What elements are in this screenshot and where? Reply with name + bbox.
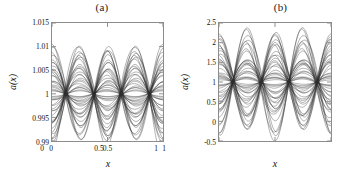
panel-b-xtick-0: 0 <box>40 144 44 153</box>
panel-a-ytick-5: 1.015 <box>32 18 49 27</box>
panel-b-ytick-3: 1 <box>212 78 216 87</box>
curve <box>52 47 163 141</box>
curve <box>52 51 163 139</box>
panel-a-y-axis-label: a(x) <box>7 74 18 90</box>
panel-b-ytick-1: 0 <box>212 118 216 127</box>
panel-b-ytick-5: 2 <box>212 38 216 47</box>
panel-a-x-axis-label: x <box>106 158 110 169</box>
figure-root: (a) 0.990.99511.0051.011.015 00.51 a(x) … <box>0 0 353 180</box>
panel-b-x-ticklabels: 00.51 <box>176 144 353 156</box>
panel-a-ytick-2: 1 <box>45 90 49 99</box>
curve <box>52 62 163 121</box>
panel-b-plot-area <box>218 22 332 142</box>
panel-a-xtick-0: 0 <box>49 144 53 153</box>
panel-a: (a) 0.990.99511.0051.011.015 00.51 a(x) … <box>0 0 176 180</box>
panel-b-curves <box>219 23 331 141</box>
panel-a-ytick-1: 0.995 <box>32 114 49 123</box>
panel-a-ytick-3: 1.005 <box>32 66 49 75</box>
panel-b-ytick-6: 2.5 <box>207 18 216 27</box>
panel-a-ytick-4: 1.01 <box>36 42 49 51</box>
panel-a-xtick-2: 1 <box>162 144 166 153</box>
panel-b-y-axis-label: a(x) <box>179 74 190 90</box>
panel-b-xtick-1: 0.5 <box>94 144 103 153</box>
panel-b-xtick-2: 1 <box>154 144 158 153</box>
panel-a-x-ticklabels: 00.51 <box>0 144 176 156</box>
curve <box>52 46 163 141</box>
panel-a-curves <box>52 23 163 141</box>
panel-b: (b) -0.500.511.522.5 00.51 a(x) x <box>176 0 353 180</box>
panel-b-x-axis-label: x <box>273 158 277 169</box>
panel-b-ytick-4: 1.5 <box>207 58 216 67</box>
panel-a-xtick-1: 0.5 <box>103 144 112 153</box>
panel-b-ytick-2: 0.5 <box>207 98 216 107</box>
panel-a-plot-area <box>51 22 164 142</box>
